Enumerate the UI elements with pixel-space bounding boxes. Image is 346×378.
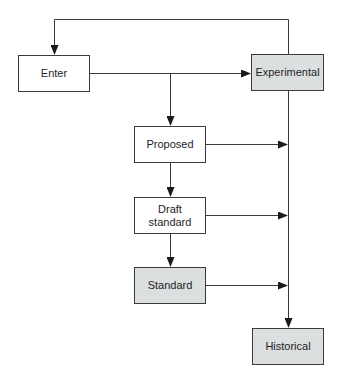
node-experimental-label: Experimental [255, 66, 319, 79]
node-draft-label-line2: standard [149, 216, 192, 229]
node-standard: Standard [134, 267, 206, 304]
node-draft-standard: Draft standard [134, 197, 206, 234]
node-enter: Enter [18, 55, 90, 92]
edge-experimental-to-enter [55, 20, 289, 55]
node-draft-label-line1: Draft [158, 203, 182, 216]
node-proposed: Proposed [134, 126, 206, 163]
node-experimental: Experimental [251, 54, 324, 91]
node-standard-label: Standard [148, 279, 193, 292]
node-enter-label: Enter [41, 67, 67, 80]
node-historical: Historical [252, 328, 324, 365]
node-proposed-label: Proposed [146, 138, 193, 151]
node-historical-label: Historical [265, 340, 310, 353]
